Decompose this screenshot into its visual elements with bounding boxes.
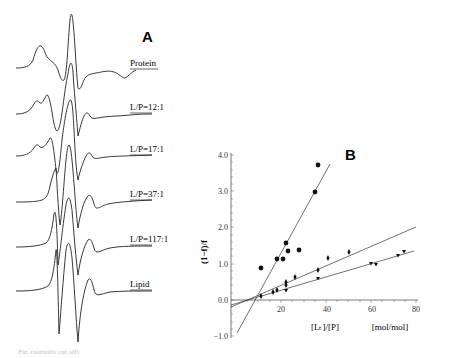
svg-text:80: 80 bbox=[412, 305, 420, 314]
svg-text:1.0: 1.0 bbox=[218, 260, 228, 269]
svg-text:2.0: 2.0 bbox=[218, 223, 228, 232]
spectrum-protein bbox=[16, 14, 136, 89]
fit-line-diamonds bbox=[231, 227, 416, 307]
spectrum-label-protein: Protein bbox=[130, 58, 156, 68]
x-axis-minor-ticks bbox=[247, 300, 416, 303]
x-axis-unit: [mol/mol] bbox=[372, 322, 409, 332]
y-tick-labels: 4.0 3.0 2.0 1.0 0.0 −1.0 bbox=[213, 151, 228, 341]
spectrum-lp-37 bbox=[16, 145, 152, 228]
spectrum-label-lp-117: L/P=117:1 bbox=[130, 234, 168, 244]
spectrum-label-lp-17: L/P=17:1 bbox=[130, 144, 164, 154]
fit-line-triangles bbox=[231, 251, 414, 305]
figure-caption-cutoff: Fig. (partially cut off) bbox=[18, 348, 438, 354]
svg-text:40: 40 bbox=[323, 305, 331, 314]
panel-b-scatter: B 4.0 3.0 2.0 1.0 0.0 −1.0 (1−f)/f bbox=[190, 120, 453, 345]
spectrum-label-lp-12: L/P=12:1 bbox=[130, 102, 164, 112]
svg-text:4.0: 4.0 bbox=[218, 151, 228, 160]
y-axis-minor-ticks bbox=[231, 155, 234, 336]
x-tick-labels: 20 40 60 80 bbox=[277, 305, 420, 314]
spectrum-lp-12 bbox=[16, 63, 152, 136]
svg-text:3.0: 3.0 bbox=[218, 187, 228, 196]
spectrum-label-lp-37: L/P=37:1 bbox=[130, 189, 164, 199]
epr-spectra-plot: A Protein L/P=12:1 L/P=17:1 L/P=37:1 L/P… bbox=[0, 0, 220, 345]
spectrum-label-lipid: Lipid bbox=[130, 279, 150, 289]
svg-text:0.0: 0.0 bbox=[218, 296, 228, 305]
svg-text:−1.0: −1.0 bbox=[213, 332, 228, 341]
binding-plot: B 4.0 3.0 2.0 1.0 0.0 −1.0 (1−f)/f bbox=[190, 120, 453, 345]
y-axis-label: (1−f)/f bbox=[199, 239, 209, 264]
panel-a-label: A bbox=[142, 28, 153, 45]
x-axis-label: [Lₜ]/[P] bbox=[311, 322, 339, 332]
svg-text:20: 20 bbox=[277, 305, 285, 314]
spectrum-lipid bbox=[16, 243, 152, 342]
panel-a-epr-spectra: A Protein L/P=12:1 L/P=17:1 L/P=37:1 L/P… bbox=[0, 0, 220, 345]
panel-b-label: B bbox=[345, 146, 356, 163]
series-circles bbox=[259, 163, 321, 271]
svg-text:60: 60 bbox=[368, 305, 376, 314]
